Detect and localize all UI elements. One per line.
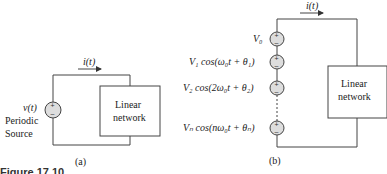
panel-b-source-0: V₀ [253,34,263,44]
svg-text:–: – [275,128,279,135]
panel-a-source-voltage: v(t) [23,103,37,113]
panel-b-source-n: Vₙ cos(nω₀t + θₙ) [183,123,255,133]
panel-a-source-name-line2: Source [5,129,33,139]
panel-b-circuit [270,13,387,147]
svg-text:+: + [51,102,55,109]
svg-text:–: – [275,62,279,69]
panel-b-label: (b) [269,156,281,166]
panel-a-source-name-line1: Periodic [5,116,38,126]
svg-text:–: – [275,39,279,46]
svg-text:–: – [51,110,55,117]
svg-text:–: – [275,88,279,95]
panel-a-current-label: i(t) [83,57,95,67]
panel-a-label: (a) [75,157,86,167]
svg-text:+: + [275,32,279,39]
panel-b-current-label: i(t) [306,1,318,11]
panel-b-source-2: V₂ cos(2ω₀t + θ₂) [183,83,254,93]
panel-a-circuit [45,69,160,145]
panel-a-source-signs: + – [51,102,55,117]
svg-text:+: + [275,81,279,88]
panel-b-network-line1: Linear [341,79,367,89]
panel-a-network-line1: Linear [115,100,141,110]
panel-a-network-line2: network [113,113,146,123]
panel-b-source-1: V₁ cos(ω₀t + θ₁) [189,57,255,67]
svg-text:+: + [275,121,279,128]
svg-text:+: + [275,55,279,62]
panel-b-network-line2: network [338,92,371,102]
figure-caption: Figure 17.10 [0,166,64,174]
